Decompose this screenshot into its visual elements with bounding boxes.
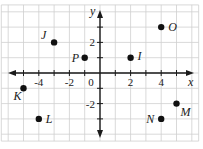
point-label: P: [71, 51, 80, 65]
point-label: K: [13, 89, 23, 103]
x-tick-label: 0: [88, 76, 94, 88]
point-i: I: [127, 49, 142, 63]
point-label: J: [41, 28, 47, 42]
point-label: L: [45, 112, 53, 126]
y-axis-arrow-up-icon: [97, 10, 103, 18]
point-label: M: [180, 105, 192, 119]
point-marker: [173, 100, 179, 106]
x-axis-arrow-left-icon: [8, 70, 16, 76]
point-k: K: [13, 85, 27, 103]
point-marker: [158, 116, 164, 122]
y-tick-label: 2: [90, 36, 96, 48]
point-label: I: [137, 49, 143, 63]
point-marker: [158, 24, 164, 30]
x-axis-label: x: [187, 75, 194, 89]
coordinate-plane: -4-20242-2 x y JPOIKLMN: [0, 0, 203, 149]
point-j: J: [41, 28, 57, 45]
x-tick-label: -2: [65, 76, 74, 88]
point-label: N: [145, 112, 155, 126]
point-marker: [51, 39, 57, 45]
point-label: O: [168, 20, 177, 34]
x-tick-label: 2: [128, 76, 134, 88]
point-marker: [127, 55, 133, 61]
x-tick-label: 4: [158, 76, 164, 88]
y-axis-label: y: [89, 4, 96, 18]
point-m: M: [173, 100, 191, 118]
point-marker: [82, 55, 88, 61]
x-tick-label: -4: [34, 76, 44, 88]
y-tick-label: -2: [86, 98, 95, 110]
point-marker: [36, 116, 42, 122]
axis-labels: x y: [89, 4, 194, 89]
